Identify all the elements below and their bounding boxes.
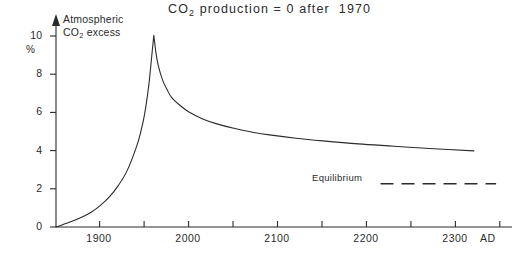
x-tick-label: 2200: [344, 232, 388, 244]
y-axis-title: AtmosphericCO2 excess: [63, 13, 124, 40]
y-tick-label: 2: [18, 182, 42, 194]
y-axis-ticks: [50, 36, 56, 227]
y-axis-title-line1: Atmospheric: [63, 13, 124, 25]
y-tick-label: 0: [18, 220, 42, 232]
y-axis-title-subscript: 2: [79, 31, 83, 40]
chart-title-subscript: 2: [189, 8, 195, 18]
y-axis-arrow-icon: [52, 14, 60, 26]
x-tick-label: 2000: [166, 232, 210, 244]
co2-excess-chart-figure: CO2 production = 0 after 1970 Atmospheri…: [0, 0, 516, 259]
x-axis-ticks: [100, 221, 500, 227]
y-axis: [52, 14, 60, 227]
x-tick-label: 2100: [255, 232, 299, 244]
x-tick-label: 1900: [77, 232, 121, 244]
chart-title-suffix: production = 0 after 1970: [195, 2, 371, 16]
y-tick-label: 6: [18, 105, 42, 117]
chart-title-prefix: CO: [168, 2, 189, 16]
y-axis-unit-label: %: [26, 44, 35, 55]
equilibrium-label: Equilibrium: [312, 172, 362, 183]
co2-excess-curve: [56, 35, 474, 227]
y-tick-label: 10: [18, 29, 42, 41]
x-axis-unit-label: AD: [480, 232, 496, 244]
x-tick-label: 2300: [433, 232, 477, 244]
y-tick-label: 8: [18, 67, 42, 79]
y-axis-title-line2-prefix: CO: [63, 26, 79, 38]
y-tick-label: 4: [18, 144, 42, 156]
chart-title: CO2 production = 0 after 1970: [168, 2, 371, 16]
y-axis-title-line2-suffix: excess: [84, 26, 121, 38]
